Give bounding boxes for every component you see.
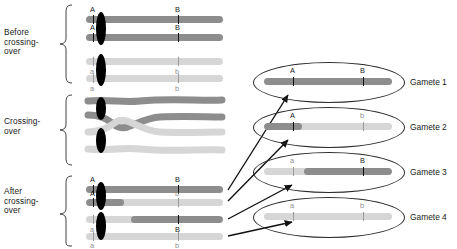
- gamete-2-allele-b: b: [360, 112, 364, 119]
- gamete-2-allele-a: A: [290, 112, 295, 119]
- gamete-4-locus-b-tick: [363, 212, 364, 221]
- gamete-2-dark-segment: [264, 123, 302, 130]
- gamete-4-chromosome: [264, 213, 392, 220]
- gamete-3-locus-a-tick: [293, 167, 294, 176]
- gamete-1-label: Gamete 1: [410, 78, 447, 86]
- gamete-3-allele-b: B: [360, 157, 365, 164]
- gamete-2-chromosome: [264, 123, 392, 130]
- gamete-3-label: Gamete 3: [410, 168, 447, 176]
- gamete-2-locus-b-tick: [363, 122, 364, 131]
- gamete-4-label: Gamete 4: [410, 213, 447, 221]
- gamete-3-chromosome: [264, 168, 392, 175]
- gamete-1-locus-b-tick: [363, 77, 364, 86]
- gamete-4-locus-a-tick: [293, 212, 294, 221]
- gamete-1-locus-a-tick: [293, 77, 294, 86]
- gamete-1-allele-a: A: [290, 67, 295, 74]
- gamete-3-dark-segment: [304, 168, 392, 175]
- gamete-2-label: Gamete 2: [410, 123, 447, 131]
- gamete-3-locus-b-tick: [363, 167, 364, 176]
- diagram-canvas: Before crossing- over Crossing- over Aft…: [0, 0, 457, 249]
- gamete-4-allele-a: a: [290, 202, 294, 209]
- gamete-2-locus-a-tick: [293, 122, 294, 131]
- gamete-3-allele-a: a: [290, 157, 294, 164]
- gamete-1-allele-b: B: [360, 67, 365, 74]
- gamete-1-chromosome: [264, 78, 392, 85]
- gamete-4-allele-b: b: [360, 202, 364, 209]
